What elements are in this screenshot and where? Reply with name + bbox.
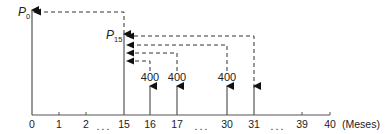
arrowhead-left-icon bbox=[33, 9, 41, 16]
flow-label-30: 400 bbox=[218, 71, 236, 83]
flow-label-17: 400 bbox=[168, 71, 186, 83]
tick-31: 31 bbox=[248, 118, 260, 130]
flow-label-16: 400 bbox=[141, 71, 159, 83]
tick-15: 15 bbox=[118, 118, 130, 130]
tick-0: 0 bbox=[29, 118, 35, 130]
tick-2: 2 bbox=[83, 118, 89, 130]
tick-1: 1 bbox=[56, 118, 62, 130]
arrowhead-left-icon bbox=[126, 50, 134, 57]
discount-arrowheads bbox=[126, 33, 134, 65]
tick-16: 16 bbox=[144, 118, 156, 130]
cash-flow-diagram: 0 1 2 ... 15 16 17 ... 30 31 ... 39 40 (… bbox=[0, 0, 391, 134]
arrowhead-left-icon bbox=[126, 33, 134, 40]
tick-30: 30 bbox=[221, 118, 233, 130]
tick-ellipsis-1: ... bbox=[97, 120, 112, 132]
tick-17: 17 bbox=[171, 118, 183, 130]
present-value-p0: P0 bbox=[18, 5, 32, 115]
axis-unit-label: (Meses) bbox=[342, 118, 380, 130]
arrowhead-left-icon bbox=[126, 58, 134, 65]
cash-flow-labels: 400 400 400 bbox=[141, 71, 236, 83]
p15-label: P15 bbox=[106, 28, 122, 44]
tick-39: 39 bbox=[296, 118, 308, 130]
cash-flow-arrows bbox=[150, 86, 254, 115]
axis-tick-labels: 0 1 2 ... 15 16 17 ... 30 31 ... 39 40 (… bbox=[29, 118, 380, 132]
p0-label: P0 bbox=[18, 5, 30, 21]
tick-ellipsis-2: ... bbox=[195, 120, 210, 132]
tick-ellipsis-3: ... bbox=[271, 120, 286, 132]
time-axis: 0 1 2 ... 15 16 17 ... 30 31 ... 39 40 (… bbox=[29, 112, 380, 132]
arrowhead-left-icon bbox=[126, 42, 134, 49]
tick-40: 40 bbox=[324, 118, 336, 130]
present-value-p15: P15 bbox=[106, 28, 124, 115]
